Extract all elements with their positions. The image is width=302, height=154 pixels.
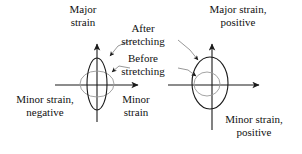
label-before-stretching: Before stretching: [105, 52, 181, 77]
label-minor-strain-positive: Minor strain, positive: [208, 113, 300, 138]
right-before-stretching-ellipse: [194, 72, 220, 96]
label-minor-strain: Minor strain: [112, 93, 160, 118]
leader-after-to-right: [178, 40, 198, 60]
label-major-strain-positive: Major strain, positive: [186, 3, 290, 28]
label-minor-strain-negative: Minor strain, negative: [2, 93, 88, 118]
right-after-stretching-ellipse: [192, 57, 228, 109]
label-after-stretching: After stretching: [105, 22, 181, 47]
strain-diagram-figure: Major strain After stretching Before str…: [0, 0, 302, 154]
